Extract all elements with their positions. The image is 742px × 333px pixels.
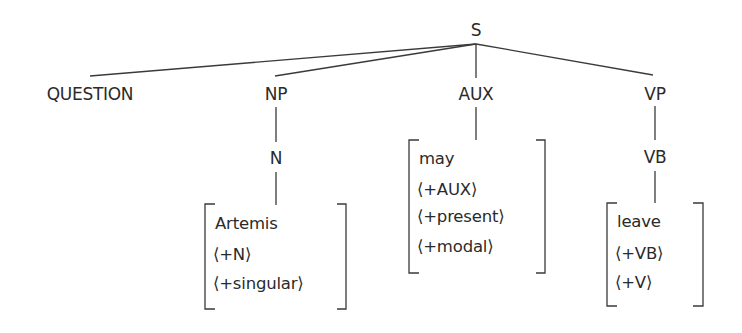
edge-s-question xyxy=(90,44,476,76)
bracket-right-vb xyxy=(693,203,703,306)
node-question: QUESTION xyxy=(47,84,133,104)
bracket-right-n xyxy=(337,204,346,309)
node-n: N xyxy=(270,148,282,168)
bracket-right-aux xyxy=(536,140,545,273)
node-vb: VB xyxy=(644,147,667,167)
node-s: S xyxy=(471,20,482,40)
edge-s-vp xyxy=(476,44,653,75)
feature-artemis: Artemis xyxy=(215,214,278,234)
node-np: NP xyxy=(265,84,287,104)
edge-s-np xyxy=(275,44,476,76)
feature-plus-aux: ⟨+AUX⟩ xyxy=(417,180,477,200)
feature-plus-modal: ⟨+modal⟩ xyxy=(417,237,493,257)
feature-plus-present: ⟨+present⟩ xyxy=(417,207,504,227)
node-aux: AUX xyxy=(459,84,494,104)
feature-leave: leave xyxy=(617,212,661,232)
feature-plus-singular: ⟨+singular⟩ xyxy=(213,274,304,294)
node-vp: VP xyxy=(644,84,665,104)
feature-plus-n: ⟨+N⟩ xyxy=(213,245,251,265)
feature-plus-v: ⟨+V⟩ xyxy=(615,273,652,293)
feature-may: may xyxy=(419,149,454,169)
feature-plus-vb: ⟨+VB⟩ xyxy=(615,244,663,264)
